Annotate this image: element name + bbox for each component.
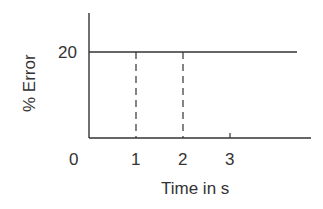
x-tick-label-0: 0 — [69, 151, 78, 168]
chart-root: 20 0 1 2 3 Time in s % Error — [0, 0, 323, 209]
y-tick-label-20: 20 — [58, 44, 77, 61]
y-axis-label: % Error — [21, 54, 38, 112]
chart-plot — [0, 0, 323, 209]
x-tick-label-2: 2 — [178, 151, 187, 168]
x-axis-label: Time in s — [161, 180, 229, 197]
x-tick-label-3: 3 — [225, 151, 234, 168]
x-tick-label-1: 1 — [131, 151, 140, 168]
